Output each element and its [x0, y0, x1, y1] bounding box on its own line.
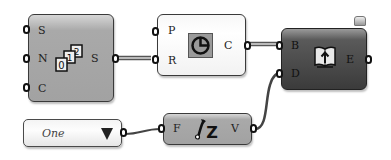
output-port-s[interactable] — [112, 54, 119, 63]
preview-toggle-knob[interactable] — [354, 16, 366, 26]
bake-node[interactable]: B D E — [281, 28, 367, 90]
value-list-output-port[interactable] — [120, 128, 127, 137]
input-port-s[interactable] — [23, 25, 30, 34]
value-list[interactable]: One — [23, 119, 122, 147]
output-label-v: V — [231, 123, 239, 135]
input-label-p: P — [168, 25, 175, 37]
output-port-c[interactable] — [244, 41, 251, 50]
output-label-c: C — [224, 40, 232, 52]
input-port-d[interactable] — [276, 69, 283, 78]
book-upload-icon — [314, 45, 336, 69]
output-port-e[interactable] — [365, 55, 372, 64]
input-label-b: B — [291, 40, 299, 52]
number-sequence-icon: 2 1 0 — [54, 44, 84, 74]
input-port-b[interactable] — [276, 41, 283, 50]
canvas[interactable]: S N C S 2 1 0 P R C — [0, 0, 391, 160]
input-label-d: D — [291, 68, 300, 80]
output-label-s: S — [91, 53, 99, 65]
input-label-n: N — [38, 53, 48, 65]
wire-valuelist-to-expression[interactable] — [125, 129, 160, 134]
value-list-selected: One — [42, 127, 65, 140]
input-port-f[interactable] — [158, 124, 165, 133]
input-port-r[interactable] — [152, 55, 159, 64]
input-port-c[interactable] — [23, 83, 30, 92]
series-node[interactable]: S N C S 2 1 0 — [28, 14, 114, 102]
expression-node[interactable]: F V Z — [163, 113, 252, 145]
svg-text:Z: Z — [206, 123, 218, 141]
input-label-f: F — [173, 123, 181, 135]
function-fz-icon: Z — [194, 117, 220, 141]
input-label-s: S — [38, 25, 46, 37]
dropdown-arrow-icon[interactable] — [101, 128, 113, 140]
input-port-p[interactable] — [152, 27, 159, 36]
svg-text:0: 0 — [58, 60, 64, 71]
circle-node[interactable]: P R C — [157, 14, 246, 76]
circle-pie-icon — [188, 33, 213, 58]
input-label-c: C — [38, 83, 46, 95]
output-port-v[interactable] — [250, 124, 257, 133]
wire-expression-to-bake[interactable] — [255, 72, 283, 129]
input-port-n[interactable] — [23, 54, 30, 63]
output-label-e: E — [346, 54, 354, 66]
input-label-r: R — [168, 55, 176, 67]
